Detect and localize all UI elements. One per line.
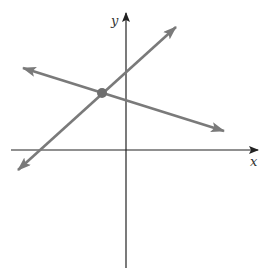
coordinate-plane: y x	[0, 0, 276, 272]
y-axis-label: y	[110, 13, 119, 28]
x-axis-label: x	[250, 154, 258, 169]
decreasing-line	[23, 68, 224, 131]
increasing-line	[18, 27, 176, 170]
intersection-point	[97, 88, 107, 98]
